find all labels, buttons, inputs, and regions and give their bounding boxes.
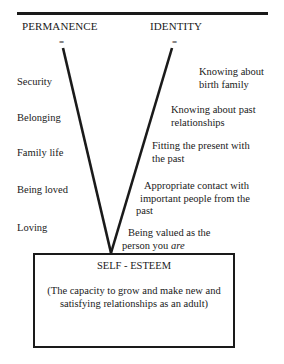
permanence-item: Security [17,76,52,89]
permanence-item: Loving [17,222,47,235]
permanence-item: Family life [17,147,63,160]
self-esteem-box: SELF - ESTEEM (The capacity to grow and … [33,253,235,348]
identity-item: Knowing about past relationships [171,104,256,129]
permanence-item: Belonging [17,112,61,125]
permanence-line [63,48,111,253]
permanence-item: Being loved [17,184,68,197]
identity-item: Appropriate contact with important peopl… [136,180,250,218]
identity-item: Fitting the present with the past [152,140,250,165]
identity-item: Knowing about birth family [199,66,264,91]
self-esteem-description: (The capacity to grow and make new and s… [41,285,227,310]
identity-item: Being valued as the person you are [122,227,211,252]
self-esteem-title: SELF - ESTEEM [35,260,233,271]
